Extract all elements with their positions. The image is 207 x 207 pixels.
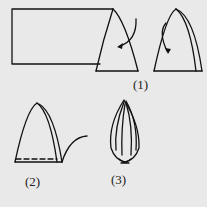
step-1-rolled-rectangle <box>12 9 138 71</box>
arrow-head-icon <box>117 43 123 49</box>
cone-left-edge <box>15 103 37 162</box>
fold-arrow-2 <box>162 23 167 51</box>
cone-outer-right-edge <box>39 104 62 162</box>
trailing-string <box>62 136 87 162</box>
cone-outer-right-edge <box>176 9 202 71</box>
step-1-label: (1) <box>133 78 148 91</box>
step-3-bud <box>111 100 140 163</box>
step-3-label: (3) <box>111 173 126 186</box>
cone-left-edge <box>154 9 176 71</box>
rectangle-outline <box>12 9 113 64</box>
cone-right-edge <box>113 9 138 71</box>
arrow-head-icon <box>165 48 171 54</box>
bud-petal-line <box>122 104 125 155</box>
cone-left-edge <box>96 9 113 71</box>
step-1-cone <box>154 9 202 71</box>
step-2-label: (2) <box>25 175 40 188</box>
step-2-cone <box>15 103 87 162</box>
folding-diagram: (1) (2) (3) <box>0 0 207 207</box>
